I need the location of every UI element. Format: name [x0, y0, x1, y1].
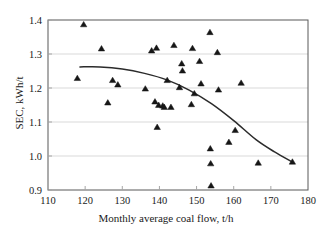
y-tick-label: 1.0: [29, 151, 42, 162]
scatter-plot: 110120130140150160170180 0.91.01.11.21.3…: [0, 0, 332, 237]
x-tick-label: 130: [114, 195, 130, 206]
x-tick-label: 140: [152, 195, 168, 206]
x-tick-label: 160: [226, 195, 242, 206]
x-axis-title: Monthly average coal flow, t/h: [0, 212, 332, 224]
x-tick-label: 150: [189, 195, 205, 206]
y-axis-tick-labels: 0.91.01.11.21.31.4: [29, 15, 43, 196]
y-tick-label: 1.1: [29, 117, 42, 128]
y-tick-label: 1.4: [29, 15, 43, 26]
y-tick-label: 1.2: [29, 83, 42, 94]
chart-figure: 110120130140150160170180 0.91.01.11.21.3…: [0, 0, 332, 237]
x-tick-label: 170: [263, 195, 279, 206]
y-axis-title: SEC, kWh/t: [13, 43, 25, 163]
y-tick-label: 0.9: [29, 185, 42, 196]
x-tick-label: 180: [300, 195, 316, 206]
y-tick-label: 1.3: [29, 49, 42, 60]
x-tick-label: 120: [77, 195, 93, 206]
x-axis-tick-labels: 110120130140150160170180: [40, 195, 316, 206]
plot-background: [48, 20, 308, 190]
x-tick-label: 110: [40, 195, 55, 206]
